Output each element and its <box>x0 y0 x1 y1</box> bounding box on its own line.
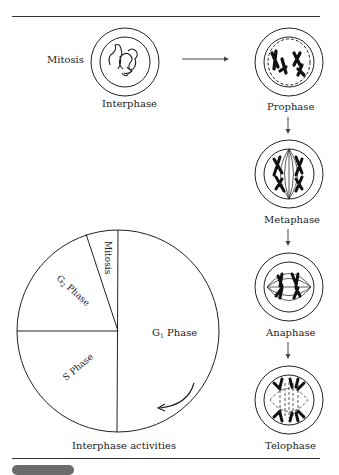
stage-label-prophase: Prophase <box>267 101 314 112</box>
anaphase-cell <box>252 250 326 324</box>
arrow-down-icon <box>284 342 292 360</box>
arrow-right-icon <box>180 55 230 63</box>
arrow-down-icon <box>284 117 292 135</box>
top-rule <box>12 16 320 17</box>
interphase-cell <box>88 25 162 99</box>
pie-caption: Interphase activities <box>72 440 176 451</box>
metaphase-cell <box>252 137 326 211</box>
stage-label-metaphase: Metaphase <box>264 214 320 225</box>
stage-label-anaphase: Anaphase <box>266 327 315 338</box>
pie-label-s: S Phase <box>61 352 95 383</box>
mitosis-title: Mitosis <box>47 54 84 65</box>
pie-label-g2: G2 Phase <box>54 273 92 309</box>
prophase-cell <box>252 25 326 99</box>
cell-cycle-pie-chart: Mitosis G2 Phase S Phase G1 Phase <box>0 220 240 445</box>
stage-label-telophase: Telophase <box>265 440 316 451</box>
figure-number-badge <box>12 465 74 475</box>
stage-label-interphase: Interphase <box>102 98 157 109</box>
pie-label-mitosis: Mitosis <box>103 241 113 275</box>
pie-label-g1: G1 Phase <box>152 327 197 339</box>
telophase-cell <box>252 363 326 437</box>
arrow-down-icon <box>284 229 292 247</box>
bottom-rule <box>12 458 320 459</box>
